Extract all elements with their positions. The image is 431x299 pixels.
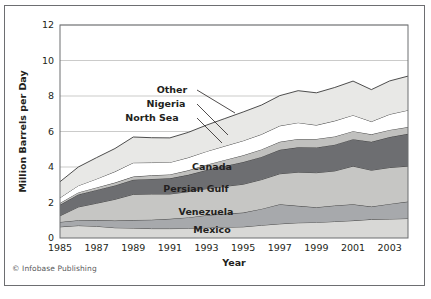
x-tick-label: 2001 [341, 242, 365, 253]
y-axis-ticks: 024681012 [42, 19, 54, 243]
y-tick-label: 8 [48, 90, 54, 101]
x-tick-label: 1989 [121, 242, 145, 253]
x-tick-label: 1991 [158, 242, 182, 253]
y-tick-label: 6 [48, 126, 54, 137]
y-tick-label: 12 [42, 19, 54, 30]
x-axis-title: Year [221, 257, 246, 268]
x-tick-label: 1987 [85, 242, 109, 253]
x-tick-label: 1985 [48, 242, 72, 253]
x-tick-label: 1993 [194, 242, 218, 253]
series-label-other: Other [157, 84, 188, 95]
x-tick-label: 1995 [231, 242, 255, 253]
series-label-mexico: Mexico [193, 224, 231, 235]
y-tick-label: 2 [48, 197, 54, 208]
chart-figure: 024681012Million Barrels per Day19851987… [0, 0, 431, 299]
stacked-area-chart: 024681012Million Barrels per Day19851987… [0, 0, 431, 299]
y-axis-title: Million Barrels per Day [17, 70, 28, 193]
series-label-persian-gulf: Persian Gulf [163, 183, 229, 194]
series-label-canada: Canada [192, 161, 232, 172]
y-tick-label: 4 [48, 161, 54, 172]
copyright-notice: © Infobase Publishing [12, 264, 97, 273]
x-tick-label: 1997 [268, 242, 292, 253]
x-tick-label: 2003 [378, 242, 402, 253]
series-label-north-sea: North Sea [125, 112, 178, 123]
series-label-venezuela: Venezuela [179, 206, 234, 217]
x-tick-label: 1999 [304, 242, 328, 253]
y-tick-label: 10 [42, 55, 54, 66]
x-axis-ticks: 1985198719891991199319951997199920012003 [48, 242, 402, 253]
series-label-nigeria: Nigeria [147, 98, 186, 109]
